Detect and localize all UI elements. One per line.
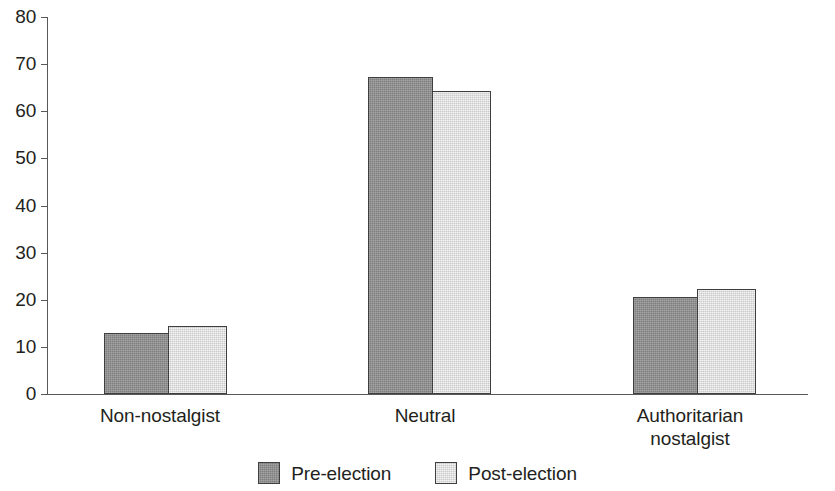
chart-legend: Pre-electionPost-election [0, 462, 835, 484]
legend-swatch-icon [435, 462, 457, 484]
y-tick-label: 60 [0, 101, 36, 120]
x-axis-category-label: Non-nostalgist [40, 404, 280, 427]
y-tick-label: 10 [0, 337, 36, 356]
bar-post-election [697, 289, 756, 394]
legend-swatch-icon [258, 462, 280, 484]
category-label-line: Non-nostalgist [40, 404, 280, 427]
bar-post-election [168, 326, 227, 394]
legend-item-post-election[interactable]: Post-election [435, 462, 577, 484]
y-tick-label: 20 [0, 290, 36, 309]
bars-layer [47, 17, 808, 394]
x-axis-line [47, 394, 808, 395]
bar-post-election [432, 91, 491, 394]
y-tick-label: 40 [0, 196, 36, 215]
category-label-line: nostalgist [570, 427, 810, 450]
y-tick-label: 0 [0, 384, 36, 403]
y-tick-label: 50 [0, 148, 36, 167]
category-label-line: Neutral [305, 404, 545, 427]
bar-chart: 01020304050607080 Non-nostalgistNeutralA… [0, 0, 835, 491]
legend-item-pre-election[interactable]: Pre-election [258, 462, 391, 484]
y-tick-label: 30 [0, 243, 36, 262]
bar-pre-election [104, 333, 169, 394]
y-tick-label: 80 [0, 7, 36, 26]
y-tick-label: 70 [0, 54, 36, 73]
x-axis-category-label: Neutral [305, 404, 545, 427]
category-label-line: Authoritarian [570, 404, 810, 427]
legend-label: Pre-election [291, 464, 391, 483]
x-axis-category-label: Authoritariannostalgist [570, 404, 810, 450]
bar-pre-election [368, 77, 433, 394]
legend-label: Post-election [468, 464, 577, 483]
bar-pre-election [633, 297, 698, 394]
